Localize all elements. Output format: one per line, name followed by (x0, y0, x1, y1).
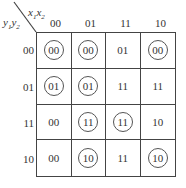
kmap-cell: 00 (37, 33, 72, 69)
cell-value: 11 (117, 80, 128, 92)
row-header: 11 (12, 117, 34, 129)
kmap-cell: 01 (106, 33, 141, 69)
kmap-cell: 10 (72, 140, 107, 176)
kmap-cell: 00 (141, 33, 176, 69)
stable-state-circle: 01 (78, 76, 98, 96)
column-header: 11 (108, 17, 143, 29)
cell-value: 11 (117, 152, 128, 164)
stable-state-circle: 11 (113, 112, 133, 132)
stable-state-circle: 00 (44, 40, 64, 60)
karnaugh-map-grid: 00 00 01 00 01 01 11 11 00 11 11 10 00 1… (36, 32, 176, 177)
row-variable-label: y1y2 (3, 17, 20, 33)
column-header: 01 (73, 17, 108, 29)
kmap-cell: 00 (72, 33, 107, 69)
cell-value: 10 (152, 116, 163, 128)
cell-value: 11 (152, 80, 163, 92)
kmap-cell: 01 (72, 69, 107, 105)
stable-state-circle: 00 (78, 40, 98, 60)
stable-state-circle: 01 (44, 76, 64, 96)
kmap-cell: 01 (37, 69, 72, 105)
kmap-cell: 11 (106, 140, 141, 176)
kmap-cell: 11 (141, 69, 176, 105)
kmap-cell: 11 (72, 105, 107, 141)
cell-value: 00 (48, 116, 59, 128)
column-header: 10 (143, 17, 178, 29)
kmap-cell: 00 (37, 140, 72, 176)
kmap-cell: 10 (141, 140, 176, 176)
row-header: 10 (12, 153, 34, 165)
stable-state-circle: 10 (148, 148, 168, 168)
row-header: 00 (12, 44, 34, 56)
kmap-cell: 00 (37, 105, 72, 141)
row-header: 01 (12, 81, 34, 93)
stable-state-circle: 10 (78, 148, 98, 168)
stable-state-circle: 00 (148, 40, 168, 60)
kmap-cell: 10 (141, 105, 176, 141)
kmap-cell: 11 (106, 69, 141, 105)
cell-value: 00 (48, 152, 59, 164)
column-header: 00 (38, 17, 73, 29)
cell-value: 01 (117, 44, 128, 56)
kmap-cell: 11 (106, 105, 141, 141)
stable-state-circle: 11 (78, 112, 98, 132)
